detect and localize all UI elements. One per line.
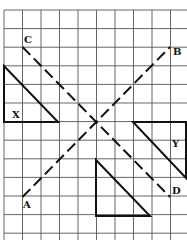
label-b: B — [173, 46, 181, 57]
triangle-y — [133, 122, 186, 178]
label-d: D — [172, 185, 181, 196]
label-c: C — [24, 34, 32, 45]
label-y: Y — [171, 138, 180, 149]
label-a: A — [22, 199, 31, 210]
grid-diagram: A B C D X Y — [0, 0, 187, 240]
label-x: X — [12, 109, 20, 120]
